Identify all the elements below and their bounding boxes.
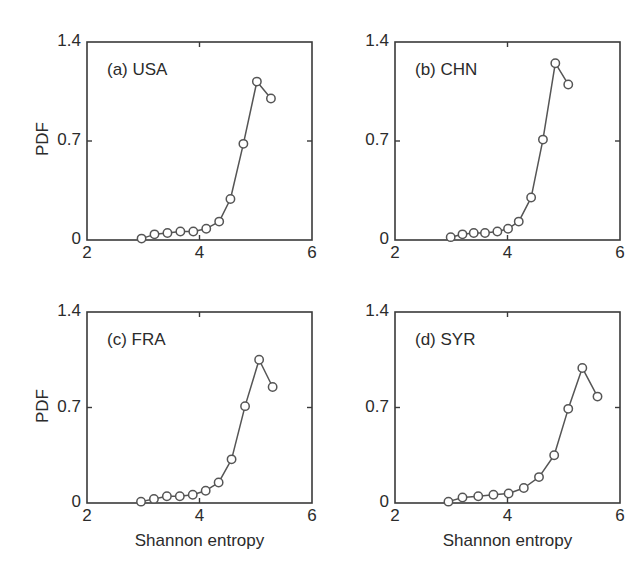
plot-area-syr <box>310 264 644 572</box>
data-point-marker <box>255 356 263 364</box>
x-tick-label: 2 <box>82 506 91 526</box>
data-point-marker <box>202 224 210 232</box>
data-point-marker <box>137 234 145 242</box>
data-point-marker <box>470 229 478 237</box>
y-tick-label: 0.7 <box>365 130 389 150</box>
data-point-marker <box>253 77 261 85</box>
data-point-marker <box>504 224 512 232</box>
x-tick-label: 6 <box>615 243 624 263</box>
y-tick-label: 1.4 <box>57 301 81 321</box>
x-tick-label: 6 <box>307 506 316 526</box>
x-tick-label: 2 <box>390 243 399 263</box>
panel-chn: (b) CHN <box>310 0 644 286</box>
data-point-marker <box>474 492 482 500</box>
data-series-line <box>141 360 273 502</box>
x-axis-label-syr: Shannon entropy <box>443 531 573 551</box>
data-point-marker <box>227 455 235 463</box>
data-point-marker <box>268 383 276 391</box>
x-tick-label: 4 <box>503 243 512 263</box>
y-tick-label: 0.7 <box>365 397 389 417</box>
x-tick-label: 4 <box>195 506 204 526</box>
data-point-marker <box>201 487 209 495</box>
data-point-marker <box>150 495 158 503</box>
data-series-line <box>451 63 569 237</box>
x-tick-label: 4 <box>503 506 512 526</box>
data-point-marker <box>520 484 528 492</box>
y-tick-label: 0 <box>380 229 389 249</box>
data-point-marker <box>564 405 572 413</box>
data-point-marker <box>527 193 535 201</box>
y-tick-label: 1.4 <box>365 31 389 51</box>
data-point-marker <box>493 227 501 235</box>
data-point-marker <box>163 229 171 237</box>
data-point-marker <box>535 473 543 481</box>
panel-fra: PDF (c) FRA Shannon entropy <box>0 264 322 572</box>
x-tick-label: 6 <box>615 506 624 526</box>
x-tick-label: 2 <box>390 506 399 526</box>
x-tick-label: 4 <box>195 243 204 263</box>
data-point-marker <box>539 135 547 143</box>
y-axis-label-usa: PDF <box>33 115 53 163</box>
data-series-line <box>142 82 271 239</box>
data-point-marker <box>137 497 145 505</box>
data-point-marker <box>214 478 222 486</box>
y-tick-label: 0 <box>380 492 389 512</box>
data-point-marker <box>444 497 452 505</box>
panel-title-fra: (c) FRA <box>107 330 166 350</box>
data-point-marker <box>189 227 197 235</box>
data-point-marker <box>215 217 223 225</box>
data-point-marker <box>550 451 558 459</box>
x-tick-label: 6 <box>307 243 316 263</box>
panel-title-syr: (d) SYR <box>415 330 475 350</box>
data-point-marker <box>446 233 454 241</box>
x-tick-label: 2 <box>82 243 91 263</box>
data-point-marker <box>226 195 234 203</box>
data-point-marker <box>241 402 249 410</box>
figure-canvas: PDF (a) USA (b) CHN PDF (c) FRA Shannon … <box>0 0 644 572</box>
data-point-marker <box>481 229 489 237</box>
data-point-marker <box>504 489 512 497</box>
panel-title-chn: (b) CHN <box>415 60 477 80</box>
y-tick-label: 1.4 <box>57 31 81 51</box>
panel-title-usa: (a) USA <box>107 60 167 80</box>
data-point-marker <box>176 227 184 235</box>
y-tick-label: 0 <box>72 492 81 512</box>
data-point-marker <box>564 80 572 88</box>
panel-usa: PDF (a) USA <box>0 0 322 286</box>
data-point-marker <box>239 140 247 148</box>
data-point-marker <box>489 491 497 499</box>
y-tick-label: 1.4 <box>365 301 389 321</box>
data-series-line <box>448 368 597 502</box>
y-tick-label: 0 <box>72 229 81 249</box>
data-point-marker <box>458 230 466 238</box>
data-point-marker <box>578 364 586 372</box>
data-point-marker <box>458 493 466 501</box>
y-axis-label-fra: PDF <box>33 382 53 430</box>
y-tick-label: 0.7 <box>57 397 81 417</box>
plot-area-chn <box>310 0 644 286</box>
data-point-marker <box>267 94 275 102</box>
data-point-marker <box>163 492 171 500</box>
data-point-marker <box>593 392 601 400</box>
y-tick-label: 0.7 <box>57 130 81 150</box>
panel-syr: (d) SYR Shannon entropy <box>310 264 644 572</box>
data-point-marker <box>150 230 158 238</box>
data-point-marker <box>176 492 184 500</box>
x-axis-label-fra: Shannon entropy <box>135 531 265 551</box>
data-point-marker <box>551 59 559 67</box>
data-point-marker <box>515 217 523 225</box>
data-point-marker <box>189 491 197 499</box>
